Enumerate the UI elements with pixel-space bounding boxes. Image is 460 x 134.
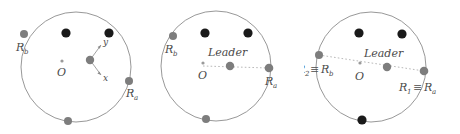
interior-node-1 (354, 28, 363, 37)
boundary-label-left: R b (164, 43, 178, 58)
interior-node-2 (243, 28, 252, 37)
formation-circle (21, 12, 131, 122)
boundary-label-left-subscript: b (173, 50, 178, 58)
panel-2-leader-designated: O Leader R b R a (152, 0, 304, 134)
boundary-label-right-subscript: 1 (407, 88, 411, 96)
boundary-label-left-equiv-base: R (320, 63, 329, 76)
boundary-node-right (420, 67, 429, 76)
boundary-label-left-equivalence: R 2 ≡ R b (304, 63, 334, 78)
boundary-label-left-subscript: b (24, 48, 29, 56)
boundary-label-right-equivalence: R 1 ≡ R a (398, 81, 436, 96)
leader-label: Leader (207, 46, 248, 59)
boundary-node-left (20, 30, 28, 38)
formation-circle (316, 12, 426, 122)
boundary-label-right-equiv-subscript: a (432, 88, 436, 96)
boundary-label-right-base: R (398, 81, 407, 94)
axis-x-label: x (103, 73, 108, 83)
boundary-node-bottom (64, 117, 72, 125)
interior-node-1 (61, 28, 70, 37)
center-label: O (355, 70, 364, 83)
axis-y-arrowhead (98, 45, 101, 49)
boundary-node-left (315, 51, 323, 59)
equivalence-symbol-right: ≡ (413, 81, 422, 94)
leader-node (383, 63, 391, 71)
boundary-label-left: R b (15, 41, 29, 56)
boundary-label-right: R a (264, 75, 277, 90)
leader-node (86, 56, 94, 64)
boundary-label-right: R a (125, 87, 138, 102)
boundary-label-right-subscript: a (273, 82, 277, 90)
equivalence-symbol-left: ≡ (310, 63, 319, 76)
panel-3-radii-aligned: O Leader R 2 ≡ R b R 1 ≡ R (304, 0, 460, 134)
interior-node-2 (397, 29, 406, 38)
center-label: O (198, 69, 207, 82)
panel-1-initial-configuration: O y x R b R a (0, 0, 155, 134)
center-label: O (57, 66, 66, 79)
center-point-marker (201, 61, 204, 64)
boundary-label-right-base: R (125, 87, 134, 100)
leader-radius-dotted-line (203, 66, 269, 68)
boundary-label-right-subscript: a (134, 94, 138, 102)
center-point-marker (358, 61, 361, 64)
axis-x-arrowhead (97, 72, 101, 75)
interior-node-2 (104, 28, 113, 37)
boundary-node-right (125, 77, 133, 85)
panel-2-svg: O Leader R b R a (152, 0, 304, 134)
boundary-node-bottom (202, 115, 210, 123)
boundary-node-bottom (357, 115, 366, 124)
boundary-label-right-base: R (264, 75, 273, 88)
center-point-marker (60, 59, 63, 62)
leader-label: Leader (363, 47, 404, 60)
interior-node-1 (200, 28, 209, 37)
axis-y-label: y (102, 37, 109, 47)
panel-3-svg: O Leader R 2 ≡ R b R 1 ≡ R (304, 0, 460, 134)
boundary-node-left (169, 32, 177, 40)
figure-canvas: O y x R b R a (0, 0, 460, 134)
boundary-label-left-equiv-subscript: b (329, 70, 334, 78)
boundary-node-right (265, 64, 274, 73)
boundary-label-left-base: R (164, 43, 173, 56)
panel-1-svg: O y x R b R a (0, 0, 155, 134)
leader-node (226, 62, 234, 70)
boundary-label-left-base: R (15, 41, 24, 54)
boundary-label-right-equiv-base: R (423, 81, 432, 94)
